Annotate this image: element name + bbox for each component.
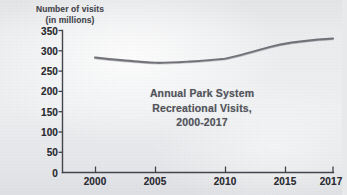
caption-line3: 2000-2017 <box>118 115 286 130</box>
y-tick-label-150: 150 <box>18 106 58 117</box>
caption-line2: Recreational Visits, <box>118 101 286 116</box>
x-tick-label-2010: 2010 <box>203 176 247 187</box>
y-tick-label-350: 350 <box>18 25 58 36</box>
data-series-line <box>95 39 333 63</box>
y-tick-label-300: 300 <box>18 45 58 56</box>
x-tick-label-2000: 2000 <box>73 176 117 187</box>
y-tick-label-100: 100 <box>18 127 58 138</box>
y-tick-label-200: 200 <box>18 86 58 97</box>
y-tick-label-50: 50 <box>18 147 58 158</box>
x-tick-label-2015: 2015 <box>263 176 307 187</box>
x-tick-marks <box>96 167 334 173</box>
caption-line1: Annual Park System <box>118 86 286 101</box>
x-tick-label-2017: 2017 <box>309 176 347 187</box>
y-tick-label-0: 0 <box>18 167 58 178</box>
x-tick-label-2005: 2005 <box>133 176 177 187</box>
chart-title-caption: Annual Park System Recreational Visits, … <box>118 86 286 130</box>
y-tick-label-250: 250 <box>18 66 58 77</box>
